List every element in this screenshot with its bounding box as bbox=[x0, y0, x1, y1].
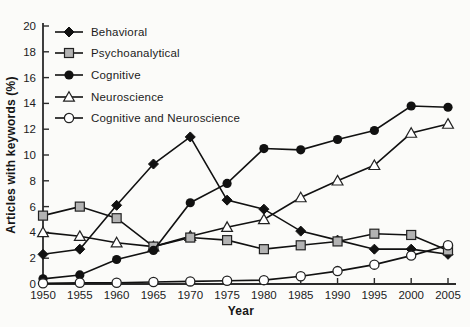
marker-circle-filled bbox=[112, 255, 121, 264]
y-tick-label: 20 bbox=[23, 20, 36, 32]
legend-label: Psychoanalytical bbox=[91, 47, 180, 59]
series-line-psychoanalytical bbox=[43, 207, 448, 251]
y-tick-label: 14 bbox=[23, 97, 36, 109]
legend-label: Cognitive bbox=[91, 69, 141, 81]
marker-circle-filled bbox=[259, 144, 268, 153]
y-tick-label: 16 bbox=[23, 72, 36, 84]
marker-square bbox=[370, 229, 379, 238]
y-tick-label: 12 bbox=[23, 123, 36, 135]
marker-circle-filled bbox=[149, 246, 158, 255]
marker-circle-filled bbox=[370, 126, 379, 135]
open-triangle-icon bbox=[54, 90, 84, 104]
marker-circle-open bbox=[222, 276, 231, 285]
x-tick-label: 2000 bbox=[398, 289, 424, 301]
marker-circle-open bbox=[38, 279, 47, 288]
marker-circle-filled bbox=[333, 135, 342, 144]
series-psychoanalytical bbox=[39, 202, 453, 255]
marker-circle-filled bbox=[222, 179, 231, 188]
x-tick-label: 1980 bbox=[251, 289, 277, 301]
series-line-neuroscience bbox=[43, 124, 448, 247]
x-tick-label: 1965 bbox=[141, 289, 167, 301]
y-tick-label: 8 bbox=[30, 175, 36, 187]
marker-triangle-open bbox=[332, 175, 343, 185]
legend-label: Behavioral bbox=[91, 26, 147, 38]
marker-triangle-open bbox=[443, 119, 454, 129]
y-tick-label: 18 bbox=[23, 46, 36, 58]
marker-circle-open bbox=[112, 278, 121, 287]
marker-square bbox=[75, 202, 84, 211]
y-tick-label: 6 bbox=[30, 201, 36, 213]
x-tick-label: 1985 bbox=[288, 289, 314, 301]
y-tick-label: 4 bbox=[30, 226, 37, 238]
scanned-line-chart-figure: 0246810121416182019501955196019651970197… bbox=[0, 0, 470, 327]
x-axis-title: Year bbox=[228, 304, 255, 318]
marker-triangle-open bbox=[259, 214, 270, 224]
marker-square bbox=[112, 214, 121, 223]
marker-diamond bbox=[259, 204, 269, 214]
marker-circle-open bbox=[370, 260, 379, 269]
marker-circle-open bbox=[186, 277, 195, 286]
marker-diamond bbox=[369, 244, 379, 254]
marker-circle-open bbox=[149, 277, 158, 286]
chart-legend: Behavioral Psychoanalytical Cognitive Ne… bbox=[54, 21, 240, 129]
marker-diamond bbox=[222, 195, 232, 205]
gray-square-icon bbox=[54, 46, 84, 60]
marker-square bbox=[407, 230, 416, 239]
marker-square bbox=[296, 241, 305, 250]
y-tick-label: 10 bbox=[23, 149, 36, 161]
marker-triangle-open bbox=[295, 192, 306, 202]
marker-square bbox=[333, 237, 342, 246]
marker-circle-open bbox=[407, 251, 416, 260]
y-axis-title: Articles with keywords (%) bbox=[4, 76, 18, 233]
marker-square bbox=[39, 211, 48, 220]
x-tick-label: 1970 bbox=[177, 289, 203, 301]
x-tick-label: 1990 bbox=[325, 289, 351, 301]
legend-label: Cognitive and Neuroscience bbox=[91, 112, 240, 124]
legend-item-psychoanalytical: Psychoanalytical bbox=[54, 43, 240, 65]
series-line-cognitive bbox=[43, 106, 448, 279]
x-tick-label: 1950 bbox=[30, 289, 56, 301]
filled-circle-icon bbox=[54, 68, 84, 82]
legend-item-cognitive: Cognitive bbox=[54, 64, 240, 86]
marker-square bbox=[223, 236, 232, 245]
marker-circle-filled bbox=[407, 101, 416, 110]
marker-square bbox=[259, 245, 268, 254]
marker-circle-filled bbox=[296, 145, 305, 154]
series-neuroscience bbox=[38, 119, 454, 251]
legend-label: Neuroscience bbox=[91, 91, 164, 103]
marker-square bbox=[186, 233, 195, 242]
series-cognitive-and-neuroscience bbox=[38, 241, 452, 288]
marker-circle-open bbox=[443, 241, 452, 250]
open-circle-icon bbox=[54, 111, 84, 125]
marker-circle-filled bbox=[443, 103, 452, 112]
x-tick-label: 2005 bbox=[435, 289, 461, 301]
x-tick-label: 1960 bbox=[104, 289, 130, 301]
y-tick-label: 2 bbox=[30, 252, 36, 264]
x-tick-label: 1955 bbox=[67, 289, 93, 301]
filled-diamond-icon bbox=[54, 25, 84, 39]
marker-circle-open bbox=[296, 272, 305, 281]
legend-item-behavioral: Behavioral bbox=[54, 21, 240, 43]
x-tick-label: 1975 bbox=[214, 289, 240, 301]
marker-circle-filled bbox=[186, 198, 195, 207]
legend-item-cognitive-and-neuroscience: Cognitive and Neuroscience bbox=[54, 107, 240, 129]
marker-circle-open bbox=[333, 267, 342, 276]
x-tick-label: 1995 bbox=[362, 289, 388, 301]
marker-circle-open bbox=[259, 276, 268, 285]
legend-item-neuroscience: Neuroscience bbox=[54, 86, 240, 108]
marker-diamond bbox=[296, 226, 306, 236]
marker-circle-open bbox=[75, 278, 84, 287]
